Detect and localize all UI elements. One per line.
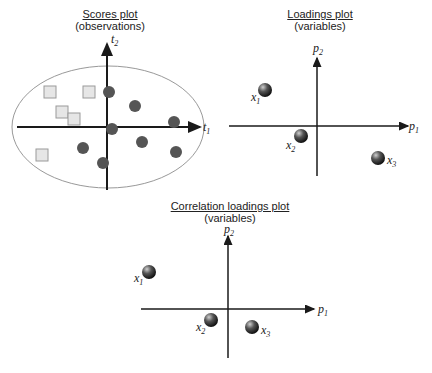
scores-plot: t1 t2 — [12, 32, 210, 190]
x2-point — [294, 129, 308, 143]
loadings-plot: p1 p2 x1 x2 x3 — [229, 41, 419, 176]
corr-x3-point — [245, 320, 259, 334]
x3-point — [371, 151, 385, 165]
corr-p1-label: p1 — [317, 302, 328, 318]
x2-label: x2 — [285, 138, 295, 154]
corr-x2-point — [204, 313, 218, 327]
corr-x3-label: x3 — [260, 323, 270, 339]
correlation-loadings-plot: p1 p2 x1 x2 x3 — [133, 222, 328, 358]
x3-label: x3 — [386, 153, 396, 169]
p2-label: p2 — [312, 41, 323, 57]
p1-label: p1 — [408, 119, 419, 135]
corr-x1-label: x1 — [133, 271, 143, 287]
x1-point — [258, 83, 272, 97]
corr-x2-label: x2 — [195, 320, 205, 336]
corr-x1-point — [142, 265, 156, 279]
t2-label: t2 — [111, 32, 118, 48]
diagram-canvas: t1 t2 p1 p2 x1 x2 x3 — [0, 0, 432, 373]
t1-label: t1 — [203, 120, 210, 136]
corr-p2-label: p2 — [223, 222, 234, 238]
